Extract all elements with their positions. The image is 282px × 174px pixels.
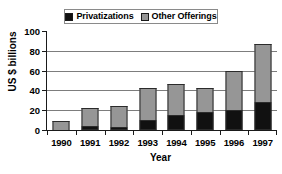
x-tick-cell	[76, 131, 105, 136]
bar-segment-privatizations[interactable]	[197, 112, 214, 130]
stacked-bar[interactable]	[254, 44, 271, 130]
x-tick-mark	[276, 131, 277, 135]
x-axis-ticks	[47, 131, 277, 136]
bar-segment-privatizations[interactable]	[225, 110, 242, 130]
bar-slot	[47, 31, 76, 130]
x-tick-cell	[220, 131, 249, 136]
bar-segment-privatizations[interactable]	[139, 120, 156, 130]
stacked-bar[interactable]	[82, 108, 99, 130]
bar-segment-privatizations[interactable]	[254, 102, 271, 130]
y-tick-label: 60	[29, 65, 40, 76]
y-tick-mark	[42, 130, 46, 131]
y-tick-label: 0	[35, 125, 40, 136]
y-tick-label: 40	[29, 85, 40, 96]
y-tick-label: 20	[29, 105, 40, 116]
x-tick-mark	[76, 131, 77, 135]
x-tick-mark	[133, 131, 134, 135]
y-tick-label: 100	[24, 26, 40, 37]
x-tick-mark	[162, 131, 163, 135]
stacked-bar[interactable]	[53, 121, 70, 130]
bar-segment-other-offerings[interactable]	[168, 84, 185, 115]
bar-segment-other-offerings[interactable]	[225, 71, 242, 111]
bar-group	[47, 31, 277, 130]
bar-segment-other-offerings[interactable]	[139, 88, 156, 120]
bar-segment-other-offerings[interactable]	[82, 108, 99, 126]
stacked-bar[interactable]	[168, 84, 185, 130]
x-axis-title: Year	[44, 152, 277, 163]
black-square-swatch-icon	[65, 13, 73, 21]
x-tick-cell	[105, 131, 134, 136]
gray-square-swatch-icon	[141, 13, 149, 21]
x-tick-cell	[162, 131, 191, 136]
bar-slot	[220, 31, 249, 130]
bar-slot	[162, 31, 191, 130]
legend-label-privatizations: Privatizations	[76, 12, 133, 21]
x-tick-cell	[248, 131, 277, 136]
x-tick-mark	[47, 131, 48, 135]
x-tick-label: 1992	[105, 137, 134, 149]
stacked-bar[interactable]	[110, 106, 127, 130]
x-tick-label: 1996	[220, 137, 249, 149]
y-tick-mark	[42, 90, 46, 91]
bar-segment-other-offerings[interactable]	[110, 106, 127, 127]
x-tick-label: 1993	[133, 137, 162, 149]
bar-slot	[133, 31, 162, 130]
y-tick-label: 80	[29, 45, 40, 56]
x-tick-label: 1997	[248, 137, 277, 149]
bar-slot	[248, 31, 277, 130]
stacked-bar[interactable]	[225, 71, 242, 130]
y-tick-mark	[42, 71, 46, 72]
plot-area: 100 80 60 40 20 0	[46, 31, 277, 130]
x-tick-cell	[133, 131, 162, 136]
chart-legend: Privatizations Other Offerings	[64, 9, 218, 24]
bar-segment-privatizations[interactable]	[82, 126, 99, 130]
x-tick-mark	[191, 131, 192, 135]
y-tick-mark	[42, 31, 46, 32]
x-tick-mark	[105, 131, 106, 135]
x-tick-label: 1991	[76, 137, 105, 149]
x-tick-label: 1994	[162, 137, 191, 149]
legend-entry-other-offerings: Other Offerings	[141, 12, 217, 21]
bar-slot	[76, 31, 105, 130]
x-tick-mark	[220, 131, 221, 135]
bar-segment-other-offerings[interactable]	[197, 88, 214, 112]
chart-figure: Privatizations Other Offerings US $ bill…	[0, 0, 282, 174]
bar-segment-privatizations[interactable]	[110, 127, 127, 130]
y-tick-mark	[42, 110, 46, 111]
x-axis-labels: 19901991199219931994199519961997	[47, 137, 277, 149]
bar-segment-privatizations[interactable]	[168, 115, 185, 130]
legend-entry-privatizations: Privatizations	[65, 12, 133, 21]
y-axis-title: US $ billions	[7, 26, 18, 98]
x-tick-cell	[191, 131, 220, 136]
x-tick-label: 1990	[47, 137, 76, 149]
stacked-bar[interactable]	[139, 88, 156, 130]
legend-label-other-offerings: Other Offerings	[152, 12, 217, 21]
bar-slot	[191, 31, 220, 130]
x-tick-label: 1995	[191, 137, 220, 149]
bar-segment-other-offerings[interactable]	[254, 44, 271, 102]
x-tick-mark	[248, 131, 249, 135]
x-tick-cell	[47, 131, 76, 136]
y-tick-mark	[42, 51, 46, 52]
bar-slot	[105, 31, 134, 130]
bar-segment-other-offerings[interactable]	[53, 121, 70, 130]
stacked-bar[interactable]	[197, 88, 214, 130]
